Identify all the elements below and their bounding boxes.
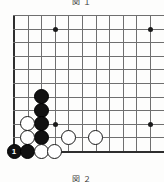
star-point-center-left xyxy=(53,122,58,127)
white-stone-c4-r9[interactable] xyxy=(61,130,76,145)
go-board[interactable]: 1 xyxy=(0,0,164,170)
grid-line-horizontal xyxy=(13,29,164,30)
black-stone-c2-r6[interactable] xyxy=(34,89,49,104)
star-point-center-right xyxy=(148,122,153,127)
star-point-upper-left xyxy=(53,27,58,32)
grid-line-horizontal xyxy=(13,15,164,16)
grid-line-horizontal xyxy=(13,56,164,57)
black-stone-c2-r9[interactable] xyxy=(34,130,49,145)
caption-bottom: 図 ２ xyxy=(0,173,164,182)
stone-move-number: 1 xyxy=(8,145,21,158)
grid-line-horizontal xyxy=(13,69,164,70)
black-stone-c1-r10[interactable] xyxy=(20,144,35,159)
grid-line-horizontal xyxy=(13,83,164,84)
white-stone-c6-r9[interactable] xyxy=(88,130,103,145)
white-stone-c3-r10[interactable] xyxy=(47,144,62,159)
white-stone-c1-r9[interactable] xyxy=(20,130,35,145)
go-diagram-page: 図 １ 1 図 ２ xyxy=(0,0,164,182)
grid-line-horizontal xyxy=(13,42,164,43)
star-point-upper-right xyxy=(148,27,153,32)
